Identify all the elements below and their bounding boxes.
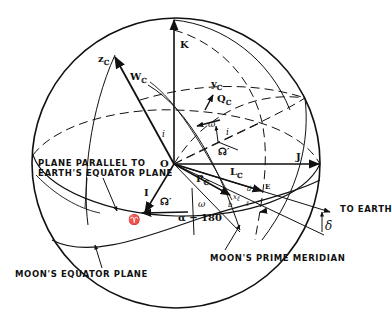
delta-label: δ [325,219,332,233]
plane-parallel-label-line2: EARTH'S EQUATOR PLANE [38,168,173,178]
prime-meridian-label: MOON'S PRIME MERIDIAN [210,253,345,263]
celestial-sphere-diagram: K J I zℂ yℂ Wℂ Qℂ Pℂ Lℂ O E ♈ i i ☊′ ☊′ … [0,0,392,320]
p-vector-label: Pℂ [196,173,210,187]
z-axis-label: zℂ [98,53,110,67]
earth-point-label: E [265,182,270,191]
omega-lower-label: ω [198,199,206,209]
alpha-minus-180-label: α − 180 [178,212,222,223]
prime-meridian-callout-arrow [225,225,240,250]
i-axis-label: I [144,187,149,198]
dec-arrow-tick [260,211,265,212]
b-label: b [228,201,233,209]
q-vector-arrow [205,95,213,110]
y-axis-label: yℂ [210,78,223,92]
w-vector-label: Wℂ [129,71,147,85]
z-axis-arrow [115,57,174,164]
inclination-lower-label: i [226,127,229,137]
node-upper-label: ☊′ [218,146,230,157]
l-label: ℓ [245,200,249,208]
j-axis-label: J [295,151,301,162]
node-lower-label: ☊′ [160,196,172,207]
plane-parallel-label-line1: PLANE PARALLEL TO [38,158,146,168]
meridians [86,20,306,240]
vernal-equinox-label: ♈ [128,213,140,226]
plane-parallel-callout [36,175,100,213]
moons-equator-callout-arrow [95,245,102,268]
earth-equator-plane-back [33,110,320,164]
to-earth-label: TO EARTH [340,204,392,214]
d-label: d [247,185,252,193]
k-axis-label: K [180,39,189,50]
x-l-label: xℓ [233,193,240,203]
moons-equator-label: MOON'S EQUATOR PLANE [15,269,148,279]
q-vector-label: Qℂ [217,93,232,107]
omega-upper-label: ω [208,119,216,129]
inclination-upper-label: i [162,129,165,139]
l-vector-label: Lℂ [230,166,243,180]
